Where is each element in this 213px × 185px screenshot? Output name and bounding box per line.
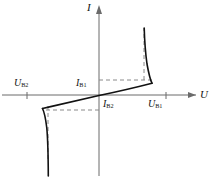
diagram-canvas	[0, 0, 213, 185]
x-axis-arrowhead	[188, 92, 196, 98]
curve-linear-region	[43, 83, 153, 108]
label-u-b1-sub: B1	[155, 102, 162, 109]
curve-group	[43, 28, 153, 176]
label-i-b2-sub: B2	[106, 102, 113, 109]
iv-characteristic-figure: I U UB2 UB1 IB1 IB2	[0, 0, 213, 185]
label-i-b1-sub: B1	[79, 81, 86, 88]
label-u-b2: UB2	[14, 78, 28, 89]
axis-group	[2, 5, 196, 176]
y-axis-arrowhead	[96, 5, 102, 14]
label-i-b2: IB2	[103, 99, 114, 110]
label-u-b1: UB1	[148, 99, 162, 110]
x-axis-label: U	[200, 89, 208, 100]
label-u-b2-sub: B2	[21, 81, 28, 88]
label-i-b1: IB1	[76, 78, 87, 89]
y-axis-label: I	[87, 2, 91, 13]
curve-negative-breakdown	[43, 109, 49, 177]
curve-positive-breakdown	[144, 28, 152, 83]
